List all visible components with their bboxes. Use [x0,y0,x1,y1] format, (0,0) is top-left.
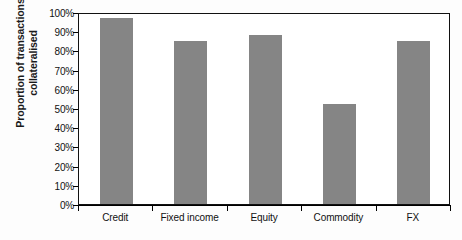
x-axis-tick-mark [152,206,153,211]
bar-fixed-income [174,41,207,204]
y-axis-tick-label: 0% [60,200,74,211]
plot-area [78,13,450,205]
y-axis-tick-label: 90% [55,27,74,38]
bar-fx [397,41,430,204]
y-axis-tick-label: 20% [55,161,74,172]
y-axis-tick-label: 10% [55,180,74,191]
y-axis-tick-label: 40% [55,123,74,134]
bar-commodity [323,104,356,204]
x-axis-tick-label: FX [407,212,420,223]
x-axis-tick-mark [376,206,377,211]
y-axis-tick-labels: 0%10%20%30%40%50%60%70%80%90%100% [36,13,78,205]
x-axis-tick-label: Equity [250,212,277,223]
y-axis-tick-label: 80% [55,46,74,57]
bars-layer [79,14,449,204]
x-axis-tick-mark [227,206,228,211]
y-axis-tick-label: 60% [55,84,74,95]
x-axis-tick-label: Credit [102,212,128,223]
x-axis-tick-label: Fixed income [160,212,218,223]
y-axis-tick-label: 70% [55,65,74,76]
bar-equity [249,35,282,204]
y-axis-tick-label: 30% [55,142,74,153]
bar-chart: Proportion of transactions collateralise… [0,0,462,240]
y-axis-tick-label: 50% [55,104,74,115]
x-axis-line [78,205,451,206]
x-axis-tick-mark [450,206,451,211]
x-axis-tick-mark [301,206,302,211]
x-axis-tick-label: Commodity [314,212,364,223]
x-axis-tick-mark [78,206,79,211]
y-axis-title-line-1: Proportion of transactions [14,0,27,158]
y-axis-tick-label: 100% [49,8,74,19]
bar-credit [100,18,133,204]
